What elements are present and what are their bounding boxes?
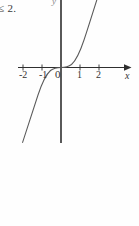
- x-tick-label-zero: 0: [55, 69, 61, 80]
- y-axis-label: y: [52, 0, 56, 6]
- x-tick-label-one: 1: [77, 70, 82, 80]
- x-tick-label-minus-2: -2: [19, 70, 27, 80]
- x-axis: [18, 64, 132, 71]
- x-axis-label: x: [125, 71, 129, 81]
- x-tick-label-two: 2: [96, 70, 101, 80]
- graph-figure: ≤ 2. -2 -1 0 1 2 x y: [0, 0, 139, 226]
- coordinate-plot: [0, 0, 139, 226]
- x-tick-label-minus-1: -1: [39, 70, 47, 80]
- caption-fragment: ≤ 2.: [0, 3, 16, 14]
